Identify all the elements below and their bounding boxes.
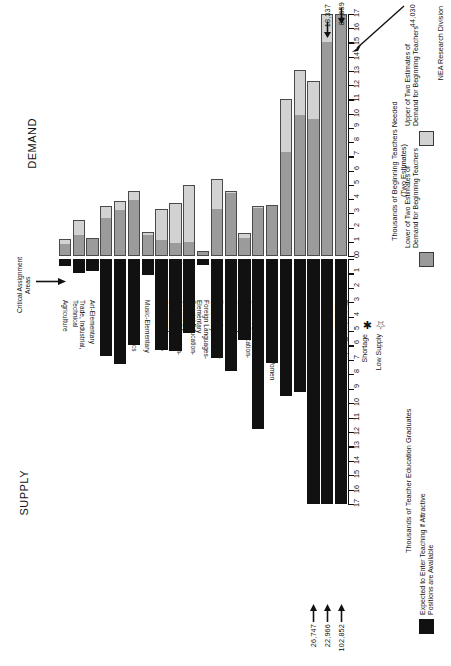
demand-lower-segment xyxy=(128,200,140,256)
category-label-cell: Physical Education-Men xyxy=(251,300,265,400)
category-label: Agriculture xyxy=(61,300,68,332)
marker-cell xyxy=(58,258,72,280)
marker-cell xyxy=(169,258,183,280)
category-label-cell: Special Education- Secondary xyxy=(182,300,196,400)
demand-lower-segment xyxy=(225,193,237,256)
shortage-glyph-icon: ✱ xyxy=(74,260,84,272)
axis-tick-label: 7 xyxy=(353,151,360,155)
critical-assignment-areas-label: Critical Assignment Areas xyxy=(16,255,32,315)
marker-cell xyxy=(99,258,113,280)
category-label-cell: Physical Education-Women xyxy=(265,300,279,400)
demand-lower-segment xyxy=(211,209,223,256)
axis-tick-label: 9 xyxy=(353,123,360,127)
axis-tick-label: 13 xyxy=(353,66,360,74)
demand-upper-segment xyxy=(280,99,292,152)
demand-bar xyxy=(320,14,334,256)
callout-arrow-icon xyxy=(309,604,318,622)
callout-leader-arrow-icon xyxy=(348,4,408,54)
demand-lower-segment xyxy=(183,242,195,256)
low-supply-glyph-icon: ☆ xyxy=(115,260,126,272)
axis-tick-label: 5 xyxy=(353,180,360,184)
demand-lower-segment xyxy=(252,208,264,256)
demand-bar xyxy=(279,14,293,256)
axis-tick-label: 5 xyxy=(353,326,360,330)
demand-bar xyxy=(210,14,224,256)
demand-upper-segment xyxy=(114,201,126,211)
demand-bar xyxy=(169,14,183,256)
axis-tick-label: 3 xyxy=(353,208,360,212)
shortage-glyph-icon: ✱ xyxy=(295,260,305,272)
callout-arrow-icon xyxy=(323,22,332,38)
low-supply-glyph-icon: ☆ xyxy=(375,318,387,332)
callout-arrow-icon xyxy=(337,604,346,622)
category-label-cell: Agriculture xyxy=(58,300,72,400)
demand-lower-segment xyxy=(169,243,181,256)
category-label: Elementary: Regular Instruction xyxy=(334,300,349,360)
marker-cell xyxy=(141,258,155,280)
category-label-cell: Business Education xyxy=(224,300,238,400)
demand-lower-segment xyxy=(86,239,98,256)
demand-lower-segment xyxy=(73,235,85,256)
demand-bar xyxy=(307,14,321,256)
axis-tick xyxy=(348,185,354,186)
category-label-cell: Industrial Arts xyxy=(113,300,127,400)
demand-lower-segment xyxy=(294,115,306,256)
axis-tick-label: 9 xyxy=(353,384,360,388)
supply-callout-label: 102,852 xyxy=(337,624,346,651)
demand-lower-segment xyxy=(197,252,209,256)
demand-lower-segment xyxy=(266,206,278,256)
legend-label-lower: Lower of Two Estimates of Demand for Beg… xyxy=(404,136,421,248)
category-label-cell: Mathematics xyxy=(293,300,307,400)
supply-title: SUPPLY xyxy=(18,470,30,516)
axis-tick-label: 2 xyxy=(353,283,360,287)
axis-tick xyxy=(348,273,354,274)
axis-tick xyxy=(348,374,354,375)
axis-tick-label: 11 xyxy=(353,413,360,420)
demand-lower-segment xyxy=(100,218,112,256)
category-label: Physical Education-Men xyxy=(255,300,262,371)
axis-tick-label: 12 xyxy=(353,427,360,435)
demand-upper-segment xyxy=(128,191,140,201)
category-label: Music-Elementary xyxy=(144,300,151,353)
category-label-cell: Foreign Languages- Secondary xyxy=(210,300,224,400)
axis-tick-label: 8 xyxy=(353,137,360,141)
category-axis-labels: AgricultureTrade, Industrial, TechnicalA… xyxy=(58,300,348,400)
axis-tick-label: 10 xyxy=(353,109,360,117)
axis-tick-label: 12 xyxy=(353,80,360,88)
demand-lower-segment xyxy=(335,14,347,256)
axis-tick-label: 6 xyxy=(353,340,360,344)
demand-bar xyxy=(238,14,252,256)
demand-bar xyxy=(113,14,127,256)
demand-bar xyxy=(251,14,265,256)
supply-callout-label: 26,747 xyxy=(309,624,318,647)
demand-bar xyxy=(72,14,86,256)
demand-upper-segment xyxy=(155,209,167,240)
axis-tick xyxy=(348,331,354,332)
supply-axis-caption: Thousands of Teacher Education Graduates xyxy=(404,396,413,566)
demand-bar xyxy=(58,14,72,256)
legend-swatch-lower xyxy=(419,252,434,267)
category-label-cell: Music-Elementary xyxy=(141,300,155,400)
axis-tick xyxy=(348,128,354,129)
low-supply-legend-label: Low Supply xyxy=(375,334,382,370)
demand-lower-segment xyxy=(114,210,126,256)
category-label-cell: Home Economics xyxy=(127,300,141,400)
demand-bar xyxy=(127,14,141,256)
legend-label-upper: Upper of Two Estimates of Demand for Beg… xyxy=(404,8,421,126)
demand-upper-segment xyxy=(307,81,319,119)
marker-cell: ✱ xyxy=(293,258,307,280)
demand-lower-segment xyxy=(142,235,154,256)
axis-tick-label: 10 xyxy=(353,398,360,406)
axis-tick xyxy=(348,156,354,157)
demand-upper-segment xyxy=(294,70,306,116)
marker-cell: ☆ xyxy=(307,258,321,280)
demand-upper-segment xyxy=(100,206,112,217)
marker-cell xyxy=(210,258,224,280)
legend-swatch-supply xyxy=(419,619,434,634)
demand-bar xyxy=(141,14,155,256)
marker-cell xyxy=(334,258,348,280)
marker-cell xyxy=(127,258,141,280)
low-supply-glyph-icon: ☆ xyxy=(308,260,319,272)
demand-bar xyxy=(224,14,238,256)
category-label: Foreign Languages- Elementary xyxy=(196,300,211,359)
